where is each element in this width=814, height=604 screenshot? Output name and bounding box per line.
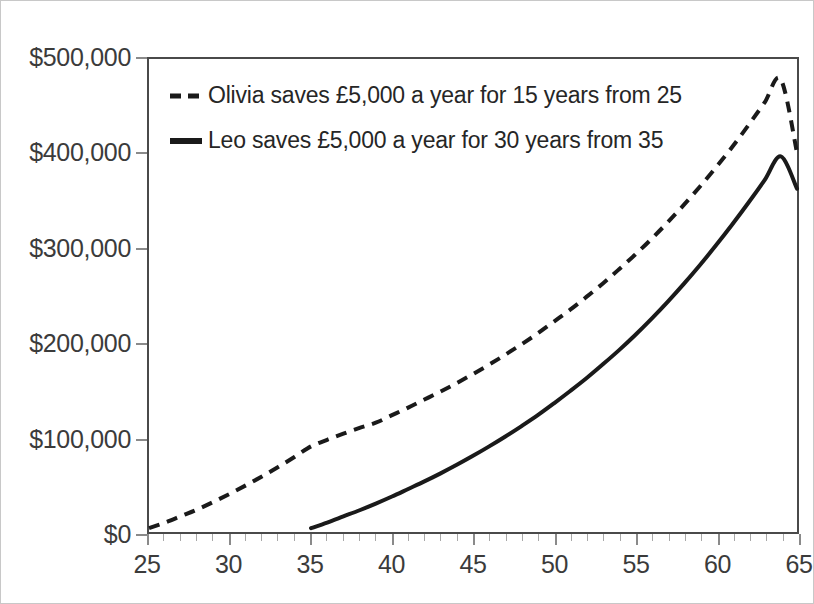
solid-line-swatch-icon: [169, 131, 203, 151]
x-major-tick: [555, 534, 557, 545]
legend-label-olivia: Olivia saves £5,000 a year for 15 years …: [208, 82, 682, 109]
chart-figure: $0$100,000$200,000$300,000$400,000$500,0…: [0, 0, 814, 604]
x-tick-label: 35: [296, 550, 323, 579]
x-minor-tick: [245, 534, 246, 541]
x-tick-label: 25: [133, 550, 160, 579]
legend-item-olivia: Olivia saves £5,000 a year for 15 years …: [169, 73, 729, 118]
x-tick-label: 45: [459, 550, 486, 579]
x-minor-tick: [359, 534, 360, 541]
x-minor-tick: [652, 534, 653, 541]
x-major-tick: [473, 534, 475, 545]
x-major-tick: [310, 534, 312, 545]
x-major-tick: [147, 534, 149, 545]
x-minor-tick: [294, 534, 295, 541]
x-minor-tick: [489, 534, 490, 541]
x-tick-label: 60: [704, 550, 731, 579]
x-major-tick: [799, 534, 801, 545]
x-minor-tick: [277, 534, 278, 541]
x-tick-label: 55: [622, 550, 649, 579]
x-major-tick: [229, 534, 231, 545]
dashed-line-swatch-icon: [169, 86, 203, 106]
x-minor-tick: [424, 534, 425, 541]
x-minor-tick: [196, 534, 197, 541]
x-tick-label: 65: [785, 550, 812, 579]
x-minor-tick: [506, 534, 507, 541]
x-major-tick: [636, 534, 638, 545]
x-tick-label: 30: [215, 550, 242, 579]
x-minor-tick: [685, 534, 686, 541]
chart-legend: Olivia saves £5,000 a year for 15 years …: [169, 73, 729, 163]
x-tick-label: 40: [378, 550, 405, 579]
x-minor-tick: [701, 534, 702, 541]
x-minor-tick: [571, 534, 572, 541]
x-minor-tick: [538, 534, 539, 541]
x-minor-tick: [440, 534, 441, 541]
x-minor-tick: [750, 534, 751, 541]
x-minor-tick: [180, 534, 181, 541]
x-minor-tick: [522, 534, 523, 541]
x-minor-tick: [457, 534, 458, 541]
x-minor-tick: [587, 534, 588, 541]
x-minor-tick: [620, 534, 621, 541]
x-minor-tick: [669, 534, 670, 541]
legend-label-leo: Leo saves £5,000 a year for 30 years fro…: [208, 127, 663, 154]
x-major-tick: [392, 534, 394, 545]
x-minor-tick: [783, 534, 784, 541]
x-minor-tick: [343, 534, 344, 541]
x-minor-tick: [163, 534, 164, 541]
x-minor-tick: [734, 534, 735, 541]
legend-item-leo: Leo saves £5,000 a year for 30 years fro…: [169, 118, 729, 163]
x-minor-tick: [212, 534, 213, 541]
x-minor-tick: [408, 534, 409, 541]
x-tick-label: 50: [541, 550, 568, 579]
x-minor-tick: [261, 534, 262, 541]
x-minor-tick: [603, 534, 604, 541]
x-major-tick: [718, 534, 720, 545]
x-minor-tick: [326, 534, 327, 541]
x-minor-tick: [375, 534, 376, 541]
x-minor-tick: [766, 534, 767, 541]
